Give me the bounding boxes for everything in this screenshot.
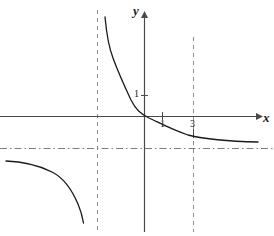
x-axis-arrow [256, 113, 263, 120]
curve-lower-left-branch [6, 161, 84, 223]
x-axis-label: x [263, 111, 270, 124]
y-axis-arrow [141, 11, 148, 18]
x-tick-label-3: 3 [190, 119, 195, 129]
x-tick-label-1: 1 [160, 119, 165, 129]
y-axis-label: y [133, 4, 139, 17]
y-tick-label-1: 1 [134, 89, 139, 99]
graph-canvas [0, 0, 274, 236]
curve-upper-branch [105, 17, 258, 142]
graph-figure: y x 1 1 3 [0, 0, 274, 236]
